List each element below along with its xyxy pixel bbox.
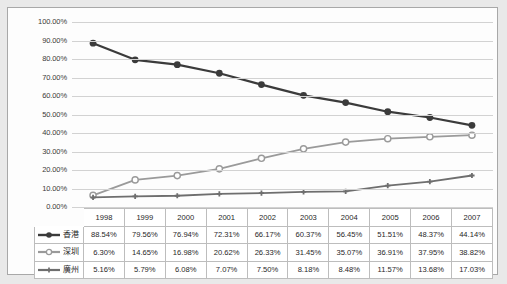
y-axis-tick-label: 10.00% [9, 185, 67, 193]
legend-marker-icon [37, 229, 61, 241]
column-header-year: 1998 [84, 209, 125, 227]
column-header-year: 2002 [247, 209, 288, 227]
table-cell: 26.33% [247, 244, 288, 262]
gridline [72, 22, 493, 23]
y-axis-tick-label: 50.00% [9, 111, 67, 119]
table-cell: 76.94% [165, 226, 206, 244]
data-point-marker [385, 136, 391, 142]
y-axis-tick-label: 80.00% [9, 55, 67, 63]
column-header-year: 2006 [411, 209, 452, 227]
data-point-marker [342, 99, 349, 106]
table-cell: 35.07% [329, 244, 370, 262]
table-cell: 37.95% [411, 244, 452, 262]
y-axis-tick-label: 20.00% [9, 166, 67, 174]
y-axis-tick-label: 60.00% [9, 92, 67, 100]
y-axis-tick-label: 70.00% [9, 74, 67, 82]
y-axis-tick-label: 90.00% [9, 37, 67, 45]
data-point-marker [132, 177, 138, 183]
data-point-marker [259, 191, 264, 196]
table-row: 深圳6.30%14.65%16.98%20.62%26.33%31.45%35.… [35, 244, 493, 262]
data-point-marker [301, 189, 306, 194]
table-cell: 72.31% [206, 226, 247, 244]
table-cell: 20.62% [206, 244, 247, 262]
series-3 [90, 173, 474, 200]
data-table-region: 1998199920002001200220032004200520062007… [34, 208, 493, 274]
series-line [93, 43, 472, 125]
table-cell: 38.82% [452, 244, 493, 262]
table-cell: 66.17% [247, 226, 288, 244]
legend-entry-1[interactable]: 香港 [35, 226, 84, 244]
table-cell: 31.45% [288, 244, 329, 262]
legend-label: 香港 [63, 230, 79, 240]
y-axis-tick-label: 100.00% [9, 18, 67, 26]
data-point-marker [133, 194, 138, 199]
data-point-marker [469, 173, 474, 178]
gridline [72, 96, 493, 97]
table-cell: 88.54% [84, 226, 125, 244]
table-row: 香港88.54%79.56%76.94%72.31%66.17%60.37%56… [35, 226, 493, 244]
table-cell: 16.98% [165, 244, 206, 262]
table-cell: 7.50% [247, 261, 288, 279]
table-cell: 79.56% [124, 226, 165, 244]
column-header-year: 2005 [370, 209, 411, 227]
legend-label: 廣州 [63, 265, 79, 275]
plot-region: 100.00%90.00%80.00%70.00%60.00%50.00%40.… [8, 8, 497, 208]
data-point-marker [258, 155, 264, 161]
data-point-marker [343, 139, 349, 145]
column-header-year: 1999 [124, 209, 165, 227]
data-point-marker [385, 183, 390, 188]
legend-entry-3[interactable]: 廣州 [35, 261, 84, 279]
table-cell: 7.07% [206, 261, 247, 279]
series-line [93, 135, 472, 195]
y-axis-tick-label: 40.00% [9, 129, 67, 137]
data-point-marker [217, 191, 222, 196]
chart-frame: 100.00%90.00%80.00%70.00%60.00%50.00%40.… [7, 7, 498, 275]
data-point-marker [216, 70, 223, 77]
table-cell: 44.14% [452, 226, 493, 244]
table-cell: 5.79% [124, 261, 165, 279]
table-cell: 6.30% [84, 244, 125, 262]
table-cell: 8.18% [288, 261, 329, 279]
table-cell: 60.37% [288, 226, 329, 244]
data-point-marker [174, 61, 181, 68]
column-header-year: 2003 [288, 209, 329, 227]
legend-marker-icon [37, 246, 61, 258]
series-lines [72, 8, 493, 208]
data-point-marker [175, 193, 180, 198]
data-point-marker [427, 134, 433, 140]
table-cell: 11.57% [370, 261, 411, 279]
table-cell: 6.08% [165, 261, 206, 279]
table-header-row: 1998199920002001200220032004200520062007 [35, 209, 493, 227]
table-cell: 8.48% [329, 261, 370, 279]
plot-area [72, 8, 493, 208]
legend-label: 深圳 [63, 247, 79, 257]
table-cell: 17.03% [452, 261, 493, 279]
chart-screenshot: 100.00%90.00%80.00%70.00%60.00%50.00%40.… [0, 0, 507, 284]
gridline [72, 133, 493, 134]
table-cell: 48.37% [411, 226, 452, 244]
data-table: 1998199920002001200220032004200520062007… [34, 208, 493, 279]
y-axis: 100.00%90.00%80.00%70.00%60.00%50.00%40.… [8, 8, 70, 208]
table-cell: 36.91% [370, 244, 411, 262]
data-point-marker [258, 81, 265, 88]
column-header-year: 2007 [452, 209, 493, 227]
data-point-marker [427, 179, 432, 184]
data-point-marker [174, 172, 180, 178]
gridline [72, 152, 493, 153]
legend-entry-2[interactable]: 深圳 [35, 244, 84, 262]
y-axis-tick-label: 30.00% [9, 148, 67, 156]
gridline [72, 115, 493, 116]
gridline [72, 41, 493, 42]
column-header-year: 2004 [329, 209, 370, 227]
gridline [72, 189, 493, 190]
table-cell: 13.68% [411, 261, 452, 279]
data-point-marker [216, 166, 222, 172]
gridline [72, 78, 493, 79]
gridline [72, 59, 493, 60]
table-cell: 51.51% [370, 226, 411, 244]
table-cell: 5.16% [84, 261, 125, 279]
table-cell: 56.45% [329, 226, 370, 244]
table-corner-cell [35, 209, 84, 227]
column-header-year: 2000 [165, 209, 206, 227]
table-cell: 14.65% [124, 244, 165, 262]
